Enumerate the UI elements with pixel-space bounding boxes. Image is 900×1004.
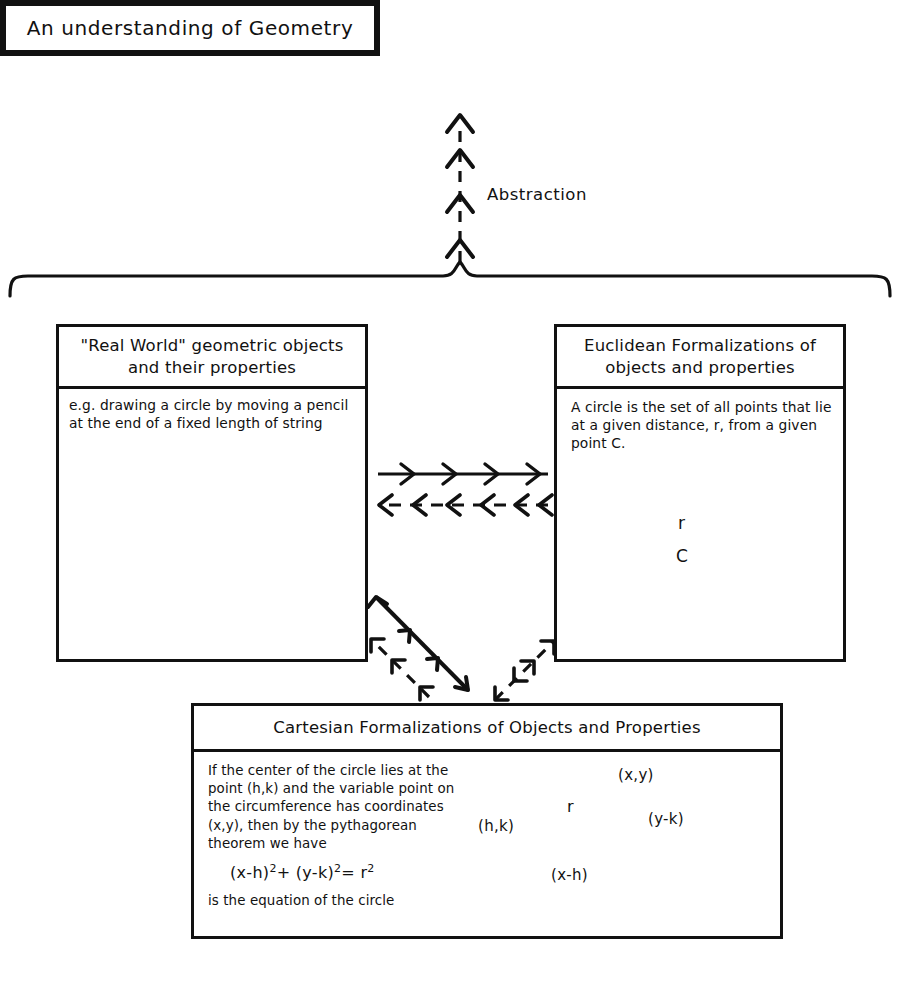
eq-plus: +	[277, 863, 291, 882]
cartesian-horizontal-label: (x-h)	[551, 866, 588, 884]
euclidean-box: Euclidean Formalizations of objects and …	[554, 324, 846, 662]
group-brace	[10, 262, 890, 296]
eq-term-2: (y-k)	[296, 863, 334, 882]
cartesian-body-tail: is the equation of the circle	[208, 892, 466, 910]
euclidean-box-title: Euclidean Formalizations of objects and …	[557, 327, 843, 389]
arrow-real-to-euclidean	[378, 464, 548, 484]
eq-exp-3: 2	[367, 862, 374, 875]
arrow-cartesian-to-real	[371, 639, 433, 700]
real-world-box: "Real World" geometric objects and their…	[56, 324, 368, 662]
abstraction-arrow	[447, 115, 473, 262]
euclidean-box-body: A circle is the set of all points that l…	[571, 399, 835, 453]
arrow-real-to-cartesian	[368, 597, 468, 690]
euclid-radius-label: r	[678, 513, 685, 533]
cartesian-center-label: (h,k)	[478, 817, 514, 835]
cartesian-radius-label: r	[567, 797, 574, 816]
arrow-euclidean-to-real	[378, 495, 552, 515]
eq-equals: =	[341, 863, 355, 882]
eq-term-1: (x-h)	[230, 863, 269, 882]
euclid-center-label: C	[676, 546, 688, 566]
cartesian-box-title: Cartesian Formalizations of Objects and …	[194, 706, 780, 752]
cartesian-point-label: (x,y)	[618, 766, 654, 784]
diagram-canvas: An understanding of Geometry	[0, 0, 900, 1004]
real-world-box-body: e.g. drawing a circle by moving a pencil…	[69, 397, 357, 433]
real-world-box-title: "Real World" geometric objects and their…	[59, 327, 365, 389]
eq-exp-1: 2	[269, 862, 276, 875]
arrow-euclidean-cartesian	[495, 641, 554, 700]
abstraction-label: Abstraction	[487, 185, 587, 204]
cartesian-vertical-label: (y-k)	[648, 810, 684, 828]
cartesian-body-paragraph: If the center of the circle lies at the …	[208, 762, 466, 853]
cartesian-box-body: If the center of the circle lies at the …	[208, 762, 466, 910]
circle-equation: (x-h)2+ (y-k)2= r2	[230, 862, 466, 884]
